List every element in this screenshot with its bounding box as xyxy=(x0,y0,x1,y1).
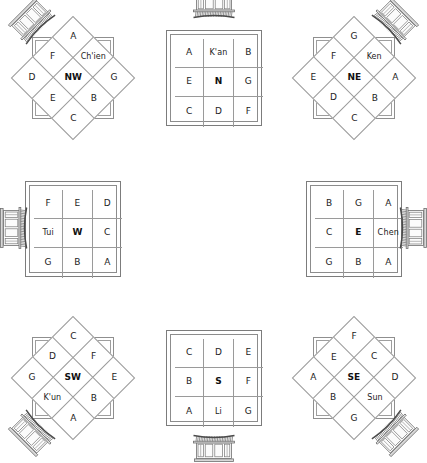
grid-cell-label: B xyxy=(91,393,97,402)
grid-cell: E xyxy=(63,190,92,219)
cell-grid-n: AK'anBENGCDF xyxy=(175,39,263,127)
grid-cell-label: F xyxy=(50,52,55,61)
panel-center xyxy=(143,153,285,304)
grid-cell: Li xyxy=(204,397,233,426)
square-grid-n: AK'anBENGCDF xyxy=(166,30,262,126)
panel-e: BGACEChenGBA xyxy=(283,153,425,304)
square-grid-w: FEDTuiWCGBA xyxy=(25,181,121,277)
panel-ne: GKenAFNEBEDC xyxy=(283,2,425,153)
grid-cell-label: K'un xyxy=(44,393,62,401)
grid-cell: G xyxy=(34,248,63,277)
panel-sw: CFEDSWBGK'unA xyxy=(2,302,144,453)
grid-cell: A xyxy=(93,248,122,277)
grid-cell: E xyxy=(344,219,373,248)
inner-wall-n: AK'anBENGCDF xyxy=(170,34,258,122)
inner-wall-e: BGACEChenGBA xyxy=(310,185,398,273)
grid-cell-label: E xyxy=(111,373,117,382)
grid-cell-label: A xyxy=(392,73,398,82)
cell-grid-w: FEDTuiWCGBA xyxy=(34,190,122,278)
grid-cell-label: A xyxy=(70,414,76,423)
grid-cell-label: NW xyxy=(64,72,81,81)
outer-wall-s: CDEBSFALiG xyxy=(166,330,262,426)
grid-cell: C xyxy=(93,219,122,248)
grid-cell: E xyxy=(175,68,204,97)
grid-cell-label: SW xyxy=(65,372,81,381)
grid-cell: B xyxy=(315,190,344,219)
grid-cell-label: SE xyxy=(348,372,361,381)
grid-cell-label: F xyxy=(331,52,336,61)
grid-cell: N xyxy=(204,68,233,97)
inner-wall-w: FEDTuiWCGBA xyxy=(29,185,117,273)
grid-cell: F xyxy=(34,190,63,219)
grid-cell: F xyxy=(234,368,263,397)
grid-cell: C xyxy=(175,339,204,368)
grid-cell-label: D xyxy=(49,352,56,361)
grid-cell-label: G xyxy=(29,373,36,382)
gate-icon-s xyxy=(191,435,237,463)
outer-wall-e: BGACEChenGBA xyxy=(306,181,402,277)
grid-cell-label: D xyxy=(391,373,398,382)
inner-wall-s: CDEBSFALiG xyxy=(170,334,258,422)
grid-cell-label: E xyxy=(50,93,56,102)
grid-cell-label: F xyxy=(91,352,96,361)
grid-cell: D xyxy=(204,97,233,126)
grid-cell-label: F xyxy=(351,332,356,341)
panel-se: FCDESESunABG xyxy=(283,302,425,453)
outer-wall-n: AK'anBENGCDF xyxy=(166,30,262,126)
grid-cell: G xyxy=(234,397,263,426)
grid-cell-label: B xyxy=(330,393,336,402)
grid-cell-label: G xyxy=(351,414,358,423)
gate-icon-e xyxy=(400,205,427,251)
cell-grid-s: CDEBSFALiG xyxy=(175,339,263,427)
panel-nw: ACh'ienGFNWBDEC xyxy=(2,2,144,153)
grid-cell: B xyxy=(344,248,373,277)
grid-cell: D xyxy=(93,190,122,219)
panel-n: AK'anBENGCDF xyxy=(143,2,285,153)
grid-cell-label: A xyxy=(310,373,316,382)
grid-cell-label: Sun xyxy=(367,393,382,401)
grid-cell: G xyxy=(315,248,344,277)
grid-cell: A xyxy=(175,39,204,68)
gate-icon-n xyxy=(191,0,237,18)
grid-cell-label: B xyxy=(372,93,378,102)
grid-cell-label: B xyxy=(91,93,97,102)
cell-grid-e: BGACEChenGBA xyxy=(315,190,403,278)
square-grid-s: CDEBSFALiG xyxy=(166,330,262,426)
grid-cell-label: E xyxy=(310,73,316,82)
grid-cell: B xyxy=(175,368,204,397)
grid-cell: Tui xyxy=(34,219,63,248)
grid-cell: K'an xyxy=(204,39,233,68)
grid-cell-label: Ken xyxy=(367,53,382,61)
grid-cell-label: G xyxy=(351,32,358,41)
grid-cell-label: C xyxy=(351,114,357,123)
gate-icon-w xyxy=(0,205,27,251)
grid-cell-label: NE xyxy=(347,72,361,81)
grid-cell: A xyxy=(175,397,204,426)
grid-cell-label: C xyxy=(70,114,76,123)
grid-cell: G xyxy=(234,68,263,97)
grid-cell: E xyxy=(234,339,263,368)
grid-cell-label: C xyxy=(70,332,76,341)
outer-wall-w: FEDTuiWCGBA xyxy=(25,181,121,277)
grid-cell: D xyxy=(204,339,233,368)
square-grid-e: BGACEChenGBA xyxy=(306,181,402,277)
grid-cell: B xyxy=(234,39,263,68)
grid-cell: F xyxy=(234,97,263,126)
grid-cell-label: E xyxy=(331,352,337,361)
grid-cell: A xyxy=(374,248,403,277)
grid-cell-label: Ch'ien xyxy=(81,53,106,61)
grid-cell: W xyxy=(63,219,92,248)
grid-cell-label: D xyxy=(330,93,337,102)
grid-cell-label: D xyxy=(29,73,36,82)
grid-cell-label: A xyxy=(70,32,76,41)
grid-cell: C xyxy=(315,219,344,248)
panel-s: CDEBSFALiG xyxy=(143,302,285,453)
grid-cell: B xyxy=(63,248,92,277)
grid-cell: G xyxy=(344,190,373,219)
grid-cell: C xyxy=(175,97,204,126)
panel-w: FEDTuiWCGBA xyxy=(2,153,144,304)
grid-cell-label: G xyxy=(110,73,117,82)
grid-cell-label: C xyxy=(371,352,377,361)
grid-cell: S xyxy=(204,368,233,397)
